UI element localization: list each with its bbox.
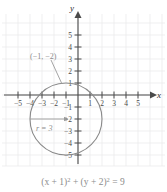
figure-background <box>0 0 167 192</box>
x-tick-label: −2 <box>50 99 58 108</box>
x-tick-label: −5 <box>14 99 22 108</box>
x-axis-label: x <box>156 90 161 100</box>
x-tick-label: 5 <box>136 99 140 108</box>
x-tick-label: 1 <box>88 99 92 108</box>
x-tick-label: 4 <box>124 99 128 108</box>
y-tick-label: 2 <box>68 67 72 76</box>
y-tick-label: 4 <box>68 43 72 52</box>
y-tick-label: 3 <box>68 55 72 64</box>
equation-tail: = 9 <box>110 177 125 187</box>
equation-caption: (x + 1)2 + (y + 2)2 = 9 <box>41 176 125 189</box>
graph-canvas: −5 −4 −3 −2 −1 1 2 3 4 5 5 4 3 2 1 −1 −2… <box>0 0 167 192</box>
y-tick-label: 5 <box>68 31 72 40</box>
y-tick-label: −1 <box>64 103 72 112</box>
y-axis-label: y <box>69 3 74 13</box>
radius-label: r = 3 <box>36 124 53 133</box>
equation-mid: + (y + 2) <box>71 177 107 188</box>
x-tick-label: 2 <box>100 99 104 108</box>
equation-lead: (x + 1) <box>41 177 67 188</box>
x-tick-label: 3 <box>112 99 116 108</box>
y-tick-label: −4 <box>64 139 72 148</box>
x-tick-label: −3 <box>38 99 46 108</box>
y-tick-label: −3 <box>64 127 72 136</box>
circle-graph-figure: −5 −4 −3 −2 −1 1 2 3 4 5 5 4 3 2 1 −1 −2… <box>0 0 167 192</box>
center-coordinate-label: (−1, −2) <box>30 52 57 61</box>
